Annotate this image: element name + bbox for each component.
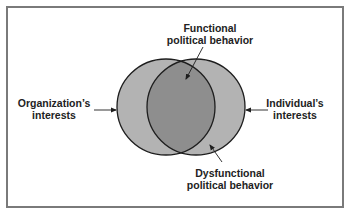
individual-label-line1: Individual’s [255,97,335,109]
functional-label-line1: Functional [150,22,270,34]
individual-label-line2: interests [255,109,335,121]
individual-interests-label: Individual’s interests [255,97,335,121]
organization-interests-label: Organization’s interests [6,97,102,121]
functional-political-behavior-label: Functional political behavior [150,22,270,46]
organization-label-line2: interests [6,109,102,121]
organization-label-line1: Organization’s [6,97,102,109]
dysfunctional-label-line1: Dysfunctional [170,167,290,179]
dysfunctional-label-line2: political behavior [170,179,290,191]
dysfunctional-political-behavior-label: Dysfunctional political behavior [170,167,290,191]
functional-label-line2: political behavior [150,34,270,46]
